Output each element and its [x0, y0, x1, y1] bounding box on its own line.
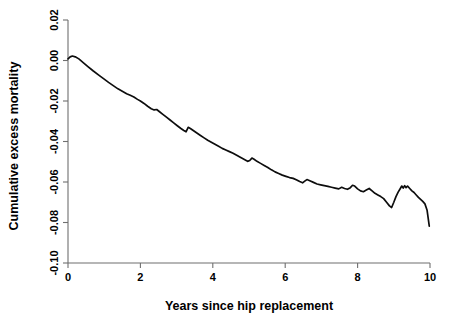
y-axis-title: Cumulative excess mortality — [7, 62, 21, 231]
chart-figure: 0.020.00-0.02-0.04-0.06-0.08-0.10 024681… — [0, 0, 452, 326]
y-tick-label: -0.06 — [48, 169, 60, 194]
y-tick-label: -0.04 — [48, 128, 60, 154]
y-tick-label: -0.02 — [48, 88, 60, 113]
x-tick-label: 0 — [65, 271, 71, 283]
y-tick-label: -0.08 — [48, 210, 60, 235]
x-tick-label: 6 — [282, 271, 288, 283]
x-tick-label: 2 — [137, 271, 143, 283]
y-tick-label: 0.02 — [48, 9, 60, 30]
y-tick-label: -0.10 — [48, 250, 60, 275]
data-series-group — [68, 56, 429, 226]
x-axis: 0246810 — [65, 263, 436, 283]
y-axis: 0.020.00-0.02-0.04-0.06-0.08-0.10 — [48, 9, 68, 275]
x-tick-label: 8 — [355, 271, 361, 283]
series-line — [68, 56, 429, 226]
x-tick-label: 4 — [210, 271, 217, 283]
chart-plot-area: 0.020.00-0.02-0.04-0.06-0.08-0.10 024681… — [0, 0, 452, 326]
x-tick-label: 10 — [424, 271, 436, 283]
y-tick-label: 0.00 — [48, 50, 60, 71]
x-axis-title: Years since hip replacement — [165, 299, 334, 313]
